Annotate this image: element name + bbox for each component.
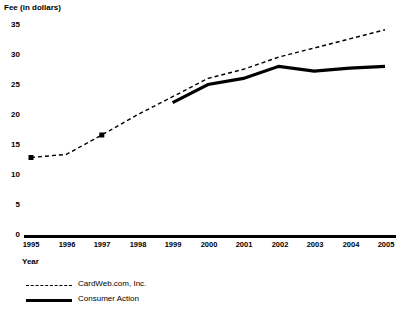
series-markers-cardweb	[29, 133, 105, 161]
series-line-cardweb	[31, 30, 385, 158]
legend-label-consumer: Consumer Action	[78, 294, 139, 303]
x-tick-label-1999: 1999	[156, 240, 190, 249]
x-tick-label-1998: 1998	[121, 240, 155, 249]
legend-swatch-dashed-icon	[26, 285, 72, 286]
x-tick-label-1997: 1997	[85, 240, 119, 249]
x-tick-label-2003: 2003	[298, 240, 332, 249]
data-point-marker	[99, 133, 104, 138]
plot-area	[0, 0, 399, 310]
x-tick-label-2002: 2002	[263, 240, 297, 249]
legend-label-cardweb: CardWeb.com, Inc.	[78, 279, 146, 288]
x-tick-label-1996: 1996	[50, 240, 84, 249]
data-point-marker	[29, 155, 34, 160]
x-tick-label-1995: 1995	[14, 240, 48, 249]
fee-line-chart: Fee (in dollars) 35 30 25 20 15 10 5 0 1…	[0, 0, 399, 310]
x-axis-title: Year	[22, 257, 39, 266]
x-tick-label-2001: 2001	[227, 240, 261, 249]
x-tick-label-2004: 2004	[334, 240, 368, 249]
series-line-consumer	[173, 66, 385, 102]
legend-swatch-solid-icon	[26, 299, 72, 302]
x-tick-label-2005: 2005	[369, 240, 399, 249]
x-tick-label-2000: 2000	[192, 240, 226, 249]
